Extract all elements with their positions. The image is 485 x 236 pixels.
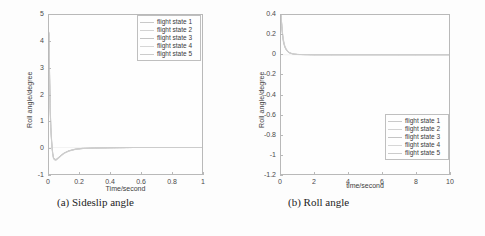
legend-item-label: flight state 4 — [157, 42, 192, 50]
legend-item: flight state 2 — [140, 26, 197, 34]
legend-item: flight state 4 — [388, 141, 445, 149]
x-tick-mark — [110, 172, 111, 175]
series-line — [281, 15, 449, 55]
legend-item: flight state 5 — [388, 149, 445, 157]
legend-item-label: flight state 5 — [157, 50, 192, 58]
legend-line-icon — [140, 22, 154, 23]
legend-item: flight state 5 — [140, 50, 197, 58]
x-tick-mark — [382, 172, 383, 175]
legend-item-label: flight state 4 — [405, 141, 440, 149]
y-tick-mark — [280, 74, 283, 75]
y-tick-mark — [48, 148, 51, 149]
legend-line-icon — [140, 46, 154, 47]
legend-item-label: flight state 1 — [157, 18, 192, 26]
panel-roll-angle: 0.40.20-0.2-0.4-0.6-0.8-1-1.2 0246810 Ro… — [243, 0, 485, 236]
y-tick-label: -0.8 — [254, 131, 276, 139]
y-tick-mark — [280, 14, 283, 15]
legend-item-label: flight state 2 — [405, 125, 440, 133]
series-line — [281, 15, 449, 55]
caption-b: (b) Roll angle — [288, 196, 349, 208]
caption-a: (a) Sideslip angle — [57, 196, 134, 208]
y-tick-mark — [280, 175, 283, 176]
legend-line-icon — [388, 121, 402, 122]
x-tick-mark — [172, 172, 173, 175]
y-tick-mark — [48, 41, 51, 42]
legend-item: flight state 3 — [388, 133, 445, 141]
y-tick-label: 5 — [22, 10, 44, 18]
y-tick-label: -1 — [254, 151, 276, 159]
legend-item-label: flight state 2 — [157, 26, 192, 34]
x-tick-mark — [348, 172, 349, 175]
x-tick-mark — [141, 172, 142, 175]
y-tick-label: 0.4 — [254, 10, 276, 18]
y-tick-label: 0 — [22, 144, 44, 152]
y-axis-label-b: Roll angle/degree — [258, 71, 265, 128]
x-axis-label-b: time/second — [280, 182, 450, 189]
legend-line-icon — [388, 153, 402, 154]
legend-item-label: flight state 3 — [157, 34, 192, 42]
x-tick-mark — [450, 172, 451, 175]
legend-line-icon — [388, 137, 402, 138]
y-tick-mark — [48, 175, 51, 176]
legend-line-icon — [140, 54, 154, 55]
panel-sideslip-angle: 543210-1 00.20.40.60.81 Roll angle/degre… — [0, 0, 242, 236]
x-tick-mark — [48, 172, 49, 175]
y-tick-label: 4 — [22, 37, 44, 45]
y-tick-mark — [280, 54, 283, 55]
legend-line-icon — [388, 145, 402, 146]
legend-item-label: flight state 1 — [405, 117, 440, 125]
x-tick-mark — [280, 172, 281, 175]
legend-item: flight state 4 — [140, 42, 197, 50]
series-line — [281, 15, 449, 55]
y-tick-label: 0.2 — [254, 30, 276, 38]
y-tick-label: 0 — [254, 50, 276, 58]
x-tick-mark — [314, 172, 315, 175]
legend-item: flight state 1 — [140, 18, 197, 26]
y-tick-mark — [48, 121, 51, 122]
figure-root: 543210-1 00.20.40.60.81 Roll angle/degre… — [0, 0, 485, 236]
x-axis-label-a: Time/second — [48, 185, 203, 192]
y-tick-mark — [280, 34, 283, 35]
y-tick-mark — [48, 95, 51, 96]
y-tick-mark — [280, 95, 283, 96]
legend-line-icon — [140, 30, 154, 31]
series-line — [281, 15, 449, 55]
legend-item: flight state 1 — [388, 117, 445, 125]
legend-item-label: flight state 3 — [405, 133, 440, 141]
y-tick-mark — [48, 68, 51, 69]
y-tick-mark — [280, 135, 283, 136]
legend-item-label: flight state 5 — [405, 149, 440, 157]
legend-item: flight state 3 — [140, 34, 197, 42]
x-tick-mark — [416, 172, 417, 175]
y-tick-mark — [48, 14, 51, 15]
x-tick-mark — [203, 172, 204, 175]
legend-item: flight state 2 — [388, 125, 445, 133]
y-tick-mark — [280, 115, 283, 116]
legend-a: flight state 1flight state 2flight state… — [137, 15, 201, 61]
legend-b: flight state 1flight state 2flight state… — [385, 114, 449, 160]
legend-line-icon — [140, 38, 154, 39]
series-line — [281, 15, 449, 55]
y-tick-mark — [280, 155, 283, 156]
y-axis-label-a: Roll angle/degree — [26, 71, 33, 128]
x-tick-mark — [79, 172, 80, 175]
legend-line-icon — [388, 129, 402, 130]
